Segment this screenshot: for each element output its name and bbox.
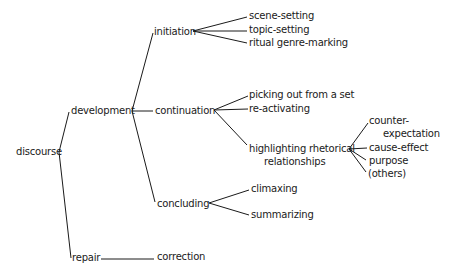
edge-initiation-ritual [193, 31, 247, 43]
edge-development-concluding [132, 111, 155, 202]
node-highlighting-line2: relationships [264, 156, 325, 167]
edge-discourse-repair [59, 152, 71, 258]
node-correction: correction [157, 251, 205, 262]
edge-development-initiation [132, 33, 153, 111]
node-concluding: concluding [157, 198, 209, 209]
node-highlighting-line1: highlighting rhetorical [249, 143, 355, 154]
edge-continuation-picking [214, 96, 248, 110]
node-ritual-genre-marking: ritual genre-marking [249, 37, 348, 48]
node-purpose: purpose [369, 155, 408, 166]
node-topic-setting: topic-setting [249, 24, 309, 35]
node-counter-line1: counter- [369, 115, 409, 126]
node-counter-line2: expectation [383, 128, 440, 139]
node-others: (others) [368, 168, 406, 179]
node-cause-effect: cause-effect [369, 142, 428, 153]
node-initiation: initiation [154, 26, 196, 37]
node-continuation: continuation [155, 105, 215, 116]
node-development: development [71, 105, 135, 116]
node-repair: repair [72, 252, 100, 263]
node-summarizing: summarizing [251, 209, 314, 220]
discourse-tree-diagram: discourse development repair correction … [0, 0, 452, 276]
node-re-activating: re-activating [249, 103, 310, 114]
node-picking-out: picking out from a set [249, 89, 354, 100]
edge-continuation-reactivating [214, 109, 248, 110]
edge-initiation-scene [193, 17, 247, 31]
edge-continuation-highlighting [214, 110, 247, 145]
node-scene-setting: scene-setting [249, 10, 314, 21]
edge-concluding-climaxing [209, 190, 249, 203]
node-climaxing: climaxing [251, 183, 298, 194]
edge-concluding-summarizing [209, 203, 249, 215]
node-discourse: discourse [16, 146, 62, 157]
